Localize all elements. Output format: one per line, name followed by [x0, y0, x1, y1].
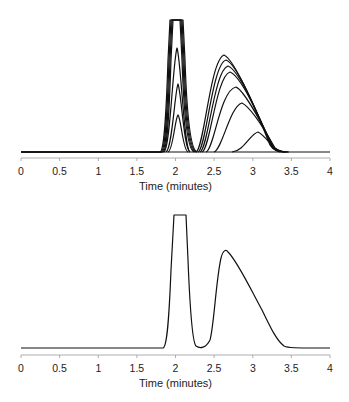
tick-label: 3.5	[284, 165, 299, 177]
bottom-trace	[21, 215, 330, 348]
tick-label: 4	[327, 165, 333, 177]
bottom-x-axis-title: Time (minutes)	[139, 377, 212, 389]
bottom-plot: 0 0.5 1 1.5 2 2.5 3 3.5 4 Time (minutes)	[18, 215, 333, 389]
bottom-tick-labels: 0 0.5 1 1.5 2 2.5 3 3.5 4	[18, 362, 333, 374]
tick-label: 2	[173, 165, 179, 177]
tick-label: 3	[250, 362, 256, 374]
tick-label: 1.5	[130, 362, 145, 374]
tick-label: 1.5	[130, 165, 145, 177]
chromatogram-figure: 0 0.5 1 1.5 2 2.5 3 3.5 4 Time (minutes)	[0, 0, 349, 402]
top-x-axis-title: Time (minutes)	[139, 180, 212, 192]
tick-label: 0	[18, 362, 24, 374]
tick-label: 1	[95, 362, 101, 374]
tick-label: 1	[95, 165, 101, 177]
bottom-x-axis	[21, 355, 330, 358]
tick-label: 0.5	[52, 362, 67, 374]
tick-label: 2	[173, 362, 179, 374]
top-x-axis	[21, 158, 330, 161]
tick-label: 3.5	[284, 362, 299, 374]
tick-label: 0.5	[52, 165, 67, 177]
tick-label: 0	[18, 165, 24, 177]
top-tick-labels: 0 0.5 1 1.5 2 2.5 3 3.5 4	[18, 165, 333, 177]
top-traces	[21, 20, 330, 152]
tick-label: 2.5	[207, 362, 222, 374]
tick-label: 3	[250, 165, 256, 177]
tick-label: 2.5	[207, 165, 222, 177]
tick-label: 4	[327, 362, 333, 374]
top-plot: 0 0.5 1 1.5 2 2.5 3 3.5 4 Time (minutes)	[18, 20, 333, 192]
